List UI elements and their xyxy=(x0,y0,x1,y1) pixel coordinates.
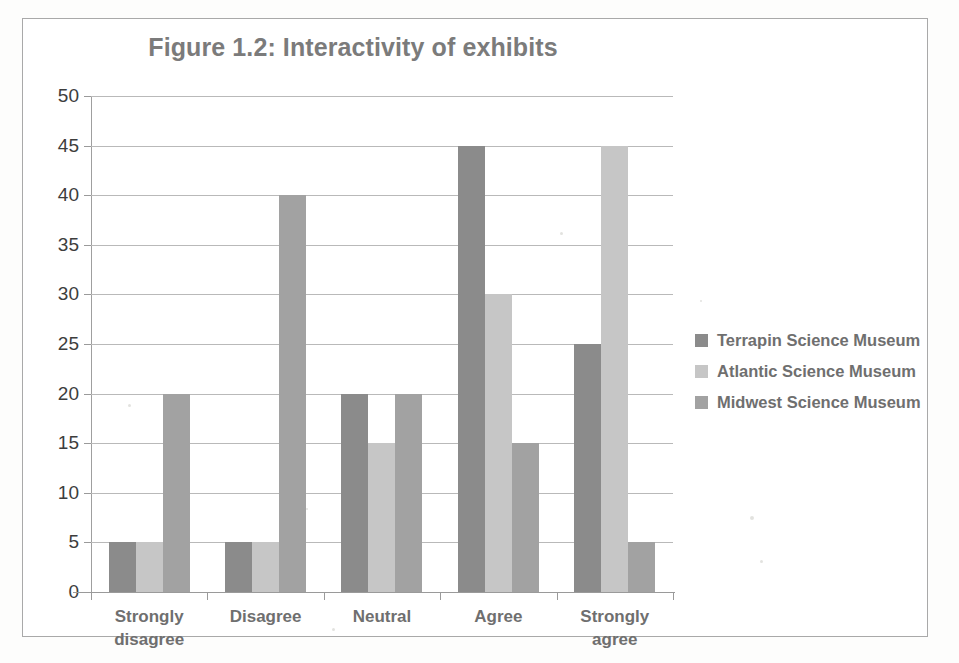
y-axis-label-30: 30 xyxy=(35,283,79,305)
legend-item-label: Terrapin Science Museum xyxy=(717,331,920,350)
scan-speck xyxy=(128,404,131,407)
bar-4-0[interactable] xyxy=(574,344,601,592)
bar-group-1 xyxy=(207,96,323,592)
legend-item-1[interactable]: Atlantic Science Museum xyxy=(695,356,920,387)
category-label-3: Agree xyxy=(440,605,556,628)
x-axis-category-labels: StronglydisagreeDisagreeNeutralAgreeStro… xyxy=(91,605,673,661)
bar-0-1[interactable] xyxy=(136,542,163,592)
y-axis-label-35: 35 xyxy=(35,234,79,256)
y-axis-label-15: 15 xyxy=(35,432,79,454)
bar-1-1[interactable] xyxy=(252,542,279,592)
legend-item-2[interactable]: Midwest Science Museum xyxy=(695,387,920,418)
y-tick-35 xyxy=(84,245,91,246)
y-axis-labels: 05101520253035404550 xyxy=(31,96,79,593)
bar-4-2[interactable] xyxy=(628,542,655,592)
x-tick-3 xyxy=(440,592,441,600)
category-label-4: Stronglyagree xyxy=(557,605,673,651)
legend-item-0[interactable]: Terrapin Science Museum xyxy=(695,325,920,356)
bar-3-1[interactable] xyxy=(485,294,512,592)
y-tick-25 xyxy=(84,344,91,345)
bar-4-1[interactable] xyxy=(601,146,628,592)
y-tick-15 xyxy=(84,443,91,444)
y-axis-label-5: 5 xyxy=(35,531,79,553)
scan-speck xyxy=(750,516,754,520)
legend-swatch-icon xyxy=(695,365,708,378)
x-tick-5 xyxy=(673,592,674,600)
scan-speck xyxy=(760,560,763,563)
category-label-line1: Strongly xyxy=(115,607,184,626)
y-axis-label-45: 45 xyxy=(35,135,79,157)
category-label-line1: Strongly xyxy=(580,607,649,626)
bar-group-3 xyxy=(440,96,556,592)
bar-group-4 xyxy=(557,96,673,592)
y-tick-0 xyxy=(84,592,91,593)
category-label-line1: Neutral xyxy=(353,607,412,626)
category-label-line2: disagree xyxy=(91,628,207,651)
category-label-2: Neutral xyxy=(324,605,440,628)
bar-0-2[interactable] xyxy=(163,394,190,592)
bar-group-0 xyxy=(91,96,207,592)
y-axis-label-25: 25 xyxy=(35,333,79,355)
y-axis-label-50: 50 xyxy=(35,85,79,107)
legend-swatch-icon xyxy=(695,334,708,347)
scanned-page: Figure 1.2: Interactivity of exhibits 05… xyxy=(0,0,959,663)
scan-speck xyxy=(560,232,563,235)
chart-legend: Terrapin Science MuseumAtlantic Science … xyxy=(695,325,920,418)
bar-2-1[interactable] xyxy=(368,443,395,592)
x-tick-4 xyxy=(557,592,558,600)
y-axis-label-20: 20 xyxy=(35,383,79,405)
bar-group-2 xyxy=(324,96,440,592)
x-tick-1 xyxy=(207,592,208,600)
bar-2-0[interactable] xyxy=(341,394,368,592)
y-tick-45 xyxy=(84,146,91,147)
category-label-line1: Disagree xyxy=(230,607,302,626)
x-tick-0 xyxy=(91,592,92,600)
y-tick-20 xyxy=(84,394,91,395)
chart-title: Figure 1.2: Interactivity of exhibits xyxy=(23,33,683,62)
bar-2-2[interactable] xyxy=(395,394,422,592)
y-axis-label-40: 40 xyxy=(35,184,79,206)
scan-speck xyxy=(306,508,308,510)
bar-1-0[interactable] xyxy=(225,542,252,592)
category-label-1: Disagree xyxy=(207,605,323,628)
x-tick-2 xyxy=(324,592,325,600)
category-label-line1: Agree xyxy=(474,607,522,626)
y-tick-10 xyxy=(84,493,91,494)
bar-1-2[interactable] xyxy=(279,195,306,592)
legend-item-label: Midwest Science Museum xyxy=(717,393,921,412)
bar-3-0[interactable] xyxy=(458,146,485,592)
plot-grid-and-bars xyxy=(91,96,673,592)
scan-speck xyxy=(700,300,702,302)
scan-speck xyxy=(332,628,335,631)
y-axis-label-10: 10 xyxy=(35,482,79,504)
category-label-0: Stronglydisagree xyxy=(91,605,207,651)
y-tick-30 xyxy=(84,294,91,295)
y-tick-5 xyxy=(84,542,91,543)
y-tick-40 xyxy=(84,195,91,196)
legend-swatch-icon xyxy=(695,396,708,409)
x-axis-line xyxy=(73,592,675,593)
y-tick-50 xyxy=(84,96,91,97)
chart-frame: Figure 1.2: Interactivity of exhibits 05… xyxy=(22,18,928,637)
bar-0-0[interactable] xyxy=(109,542,136,592)
bar-3-2[interactable] xyxy=(512,443,539,592)
category-label-line2: agree xyxy=(557,628,673,651)
plot-area xyxy=(91,96,673,592)
legend-item-label: Atlantic Science Museum xyxy=(717,362,916,381)
